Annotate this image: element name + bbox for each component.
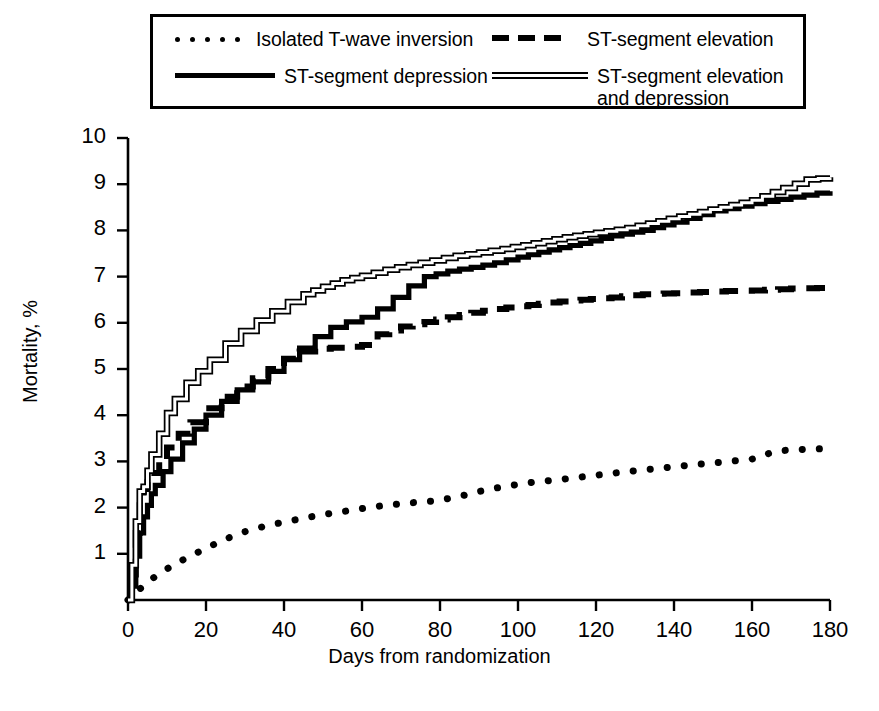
y-tick-label: 2 — [46, 493, 106, 519]
y-tick-label: 8 — [46, 215, 106, 241]
x-tick-label: 60 — [332, 617, 392, 643]
x-tick-label: 180 — [800, 617, 860, 643]
x-axis-title: Days from randomization — [0, 645, 879, 668]
x-tick-label: 0 — [98, 617, 158, 643]
series-line-double-inner — [128, 177, 830, 600]
y-tick-label: 1 — [46, 539, 106, 565]
y-tick-label: 7 — [46, 262, 106, 288]
y-tick-label: 3 — [46, 446, 106, 472]
x-tick-label: 80 — [410, 617, 470, 643]
y-tick-label: 4 — [46, 400, 106, 426]
y-tick-label: 9 — [46, 169, 106, 195]
x-tick-label: 20 — [176, 617, 236, 643]
y-axis-title: Mortality, % — [19, 252, 42, 452]
series-line-dotted — [128, 448, 830, 600]
x-tick-label: 160 — [722, 617, 782, 643]
x-tick-label: 140 — [644, 617, 704, 643]
x-tick-label: 120 — [566, 617, 626, 643]
y-tick-label: 6 — [46, 308, 106, 334]
mortality-kaplan-meier-figure: Isolated T-wave inversion ST-segment ele… — [0, 0, 879, 711]
series-line-dashed — [128, 288, 830, 600]
chart-svg — [0, 0, 879, 711]
plot-area — [0, 0, 879, 711]
y-tick-label: 5 — [46, 354, 106, 380]
x-tick-label: 40 — [254, 617, 314, 643]
series-line-double-outer — [128, 177, 830, 600]
y-tick-label: 10 — [46, 123, 106, 149]
x-tick-label: 100 — [488, 617, 548, 643]
